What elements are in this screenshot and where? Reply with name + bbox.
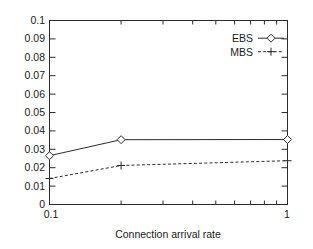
series-ebs-marker xyxy=(117,136,125,144)
legend-sample-marker-ebs xyxy=(267,34,275,42)
chart-figure: 0 0.01 0.02 0.03 0.04 0.05 xyxy=(0,0,313,249)
series-mbs-marker xyxy=(117,162,125,170)
series-mbs-marker xyxy=(284,157,292,165)
y-tick-8: 0.08 xyxy=(25,51,56,63)
series-mbs xyxy=(46,157,292,183)
legend-entry-ebs: EBS xyxy=(232,32,284,44)
y-tick-9: 0.09 xyxy=(25,32,56,44)
y-axis-ticks: 0 0.01 0.02 0.03 0.04 0.05 xyxy=(25,14,56,210)
y-tick-label: 0.05 xyxy=(25,106,46,118)
series-ebs-line xyxy=(50,140,288,156)
y-tick-2: 0.02 xyxy=(25,161,56,173)
y-tick-label: 0.09 xyxy=(25,32,46,44)
y-tick-label: 0.04 xyxy=(25,124,46,136)
y-tick-7: 0.07 xyxy=(25,69,56,81)
line-chart: 0 0.01 0.02 0.03 0.04 0.05 xyxy=(0,0,313,249)
series-mbs-marker xyxy=(46,175,54,183)
legend-sample-marker-mbs xyxy=(267,48,275,56)
x-axis-ticks: 0.1 1 xyxy=(44,21,290,221)
series-ebs-marker xyxy=(46,152,54,160)
y-tick-5: 0.05 xyxy=(25,106,56,118)
y-tick-1: 0.01 xyxy=(25,180,56,192)
y-tick-label: 0.07 xyxy=(25,69,46,81)
legend-entry-mbs: MBS xyxy=(230,46,284,58)
legend-label-ebs: EBS xyxy=(232,32,253,44)
x-axis-title: Connection arrival rate xyxy=(115,228,221,240)
y-tick-4: 0.04 xyxy=(25,124,56,136)
y-tick-6: 0.06 xyxy=(25,88,56,100)
chart-legend: EBS MBS xyxy=(230,32,284,58)
y-axis-right-ticks xyxy=(282,39,288,205)
y-tick-10: 0.1 xyxy=(30,14,55,26)
series-mbs-line xyxy=(50,161,288,179)
x-tick-label: 1 xyxy=(284,208,290,220)
y-tick-label: 0.02 xyxy=(25,161,46,173)
series-ebs-marker xyxy=(284,136,292,144)
y-tick-label: 0.01 xyxy=(25,180,46,192)
y-tick-label: 0.06 xyxy=(25,88,46,100)
y-tick-label: 0.03 xyxy=(25,143,46,155)
y-tick-label: 0.1 xyxy=(30,14,45,26)
legend-label-mbs: MBS xyxy=(230,46,253,58)
x-tick-label: 0.1 xyxy=(44,208,59,220)
y-tick-label: 0.08 xyxy=(25,51,46,63)
series-ebs xyxy=(46,136,292,160)
